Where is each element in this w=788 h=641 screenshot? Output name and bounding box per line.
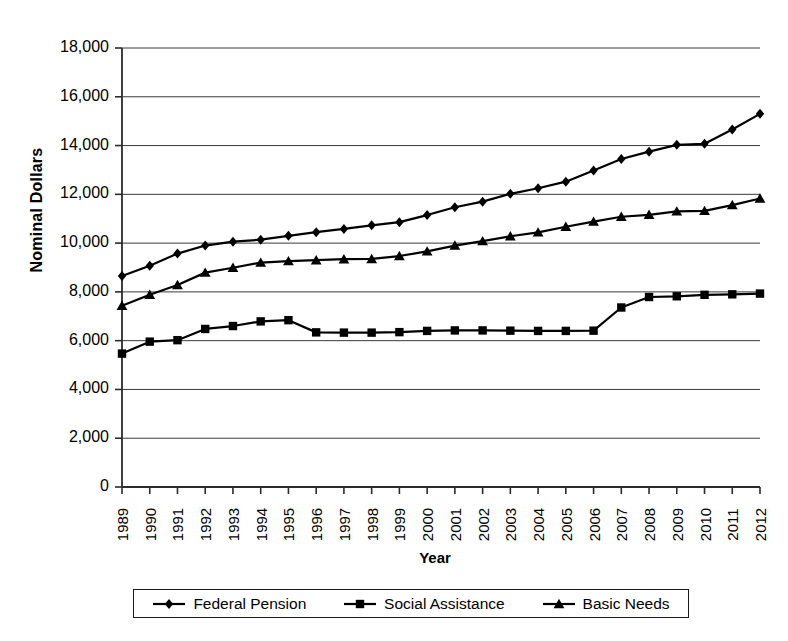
series-line <box>122 114 760 276</box>
data-point-diamond <box>728 124 736 134</box>
data-point-diamond <box>340 224 348 234</box>
series-line <box>122 294 760 354</box>
data-point-diamond <box>146 261 154 271</box>
data-point-square <box>201 325 209 333</box>
data-point-square <box>562 327 570 335</box>
plot-area <box>0 0 788 641</box>
data-point-diamond <box>451 202 459 212</box>
data-point-square <box>756 289 764 297</box>
legend-marker-diamond <box>152 597 186 611</box>
legend-label: Social Assistance <box>384 595 505 613</box>
data-point-square <box>534 327 542 335</box>
data-point-diamond <box>312 227 320 237</box>
data-point-square <box>340 328 348 336</box>
data-point-diamond <box>645 147 653 157</box>
data-point-square <box>312 328 320 336</box>
legend-label: Federal Pension <box>193 595 306 613</box>
data-point-diamond <box>229 237 237 247</box>
data-point-diamond <box>367 220 375 230</box>
data-point-square <box>617 303 625 311</box>
data-point-diamond <box>118 271 126 281</box>
data-point-diamond <box>589 165 597 175</box>
data-point-diamond <box>534 183 542 193</box>
data-point-diamond <box>423 210 431 220</box>
line-chart-figure: Nominal Dollars Year 02,0004,0006,0008,0… <box>0 0 788 641</box>
data-point-diamond <box>201 241 209 251</box>
data-point-square <box>645 293 653 301</box>
data-point-square <box>506 326 514 334</box>
data-point-square <box>173 336 181 344</box>
data-point-diamond <box>756 109 764 119</box>
data-point-square <box>229 322 237 330</box>
data-point-square <box>118 349 126 357</box>
data-point-square <box>367 328 375 336</box>
data-point-diamond <box>700 139 708 149</box>
data-point-diamond <box>173 249 181 259</box>
data-point-square <box>356 599 364 607</box>
legend-entry[interactable]: Federal Pension <box>152 595 306 613</box>
legend-entry[interactable]: Basic Needs <box>542 595 670 613</box>
legend-marker-triangle <box>542 597 576 611</box>
data-point-square <box>478 326 486 334</box>
data-point-square <box>700 291 708 299</box>
legend-entry[interactable]: Social Assistance <box>343 595 505 613</box>
data-point-diamond <box>506 189 514 199</box>
data-point-square <box>451 326 459 334</box>
series-line <box>122 198 760 305</box>
data-point-diamond <box>617 154 625 164</box>
data-point-diamond <box>165 599 173 609</box>
legend-marker-square <box>343 597 377 611</box>
data-point-square <box>589 326 597 334</box>
data-point-square <box>673 292 681 300</box>
data-point-square <box>256 317 264 325</box>
data-point-diamond <box>284 231 292 241</box>
data-point-diamond <box>478 197 486 207</box>
series-federal-pension <box>118 109 764 281</box>
chart-legend: Federal PensionSocial AssistanceBasic Ne… <box>133 589 689 618</box>
data-point-diamond <box>395 217 403 227</box>
data-point-square <box>284 316 292 324</box>
data-point-square <box>395 328 403 336</box>
series-social-assistance <box>118 289 764 357</box>
legend-label: Basic Needs <box>583 595 670 613</box>
data-point-square <box>423 327 431 335</box>
data-point-diamond <box>562 177 570 187</box>
data-point-square <box>146 337 154 345</box>
data-point-diamond <box>673 140 681 150</box>
data-point-square <box>728 290 736 298</box>
